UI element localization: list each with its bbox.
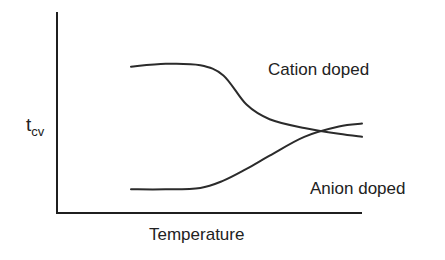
chart: tcv Temperature Cation doped Anion doped: [0, 0, 445, 260]
series-layer: [131, 64, 362, 190]
y-axis-label-subscript: cv: [31, 124, 45, 139]
y-axis-label: tcv: [26, 114, 45, 139]
annotation-cation-doped: Cation doped: [268, 60, 369, 79]
x-axis-label: Temperature: [149, 225, 244, 244]
annotation-anion-doped: Anion doped: [310, 179, 405, 198]
